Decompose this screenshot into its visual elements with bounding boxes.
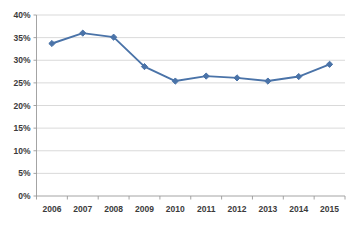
y-axis-tick-label: 35% xyxy=(13,33,30,43)
series-line xyxy=(52,33,330,81)
data-point-marker xyxy=(296,73,302,79)
line-chart: 0%5%10%15%20%25%30%35%40% 20062007200820… xyxy=(0,0,357,226)
data-series xyxy=(52,33,330,81)
x-axis-tick-label: 2006 xyxy=(42,204,61,214)
data-point-marker xyxy=(80,30,86,36)
y-axis-tick-label: 25% xyxy=(13,78,30,88)
data-point-marker xyxy=(234,75,240,81)
y-axis-tick-label: 5% xyxy=(18,168,31,178)
y-axis-tick-label: 15% xyxy=(13,123,30,133)
x-axis-tick-label: 2011 xyxy=(197,204,216,214)
y-axis-tick-label: 10% xyxy=(13,146,30,156)
x-axis-tick-label: 2008 xyxy=(104,204,123,214)
x-axis-tick-label: 2014 xyxy=(289,204,308,214)
chart-canvas: 0%5%10%15%20%25%30%35%40% 20062007200820… xyxy=(0,0,357,226)
data-point-marker xyxy=(49,40,55,46)
x-axis-tick-label: 2013 xyxy=(258,204,277,214)
x-axis-tick-label: 2012 xyxy=(228,204,247,214)
x-axis-tick-label: 2010 xyxy=(166,204,185,214)
x-axis-tick-label: 2007 xyxy=(73,204,92,214)
y-axis xyxy=(34,15,37,196)
gridlines xyxy=(37,15,346,173)
y-axis-tick-label: 30% xyxy=(13,55,30,65)
data-point-marker xyxy=(265,78,271,84)
x-axis-tick-label: 2015 xyxy=(320,204,339,214)
data-point-markers xyxy=(49,30,333,84)
x-axis xyxy=(37,196,346,200)
y-axis-tick-label: 0% xyxy=(18,191,31,201)
data-point-marker xyxy=(172,78,178,84)
y-axis-tick-labels: 0%5%10%15%20%25%30%35%40% xyxy=(13,10,30,201)
x-axis-tick-label: 2009 xyxy=(135,204,154,214)
x-axis-tick-labels: 2006200720082009201020112012201320142015 xyxy=(42,204,339,214)
data-point-marker xyxy=(203,73,209,79)
data-point-marker xyxy=(326,61,332,67)
y-axis-tick-label: 20% xyxy=(13,101,30,111)
y-axis-tick-label: 40% xyxy=(13,10,30,20)
